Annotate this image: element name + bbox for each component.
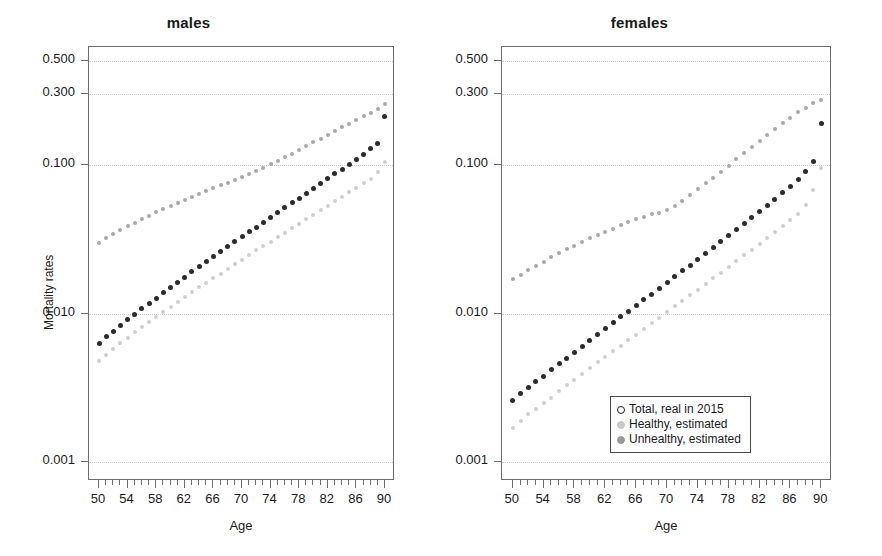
y-gridline — [502, 165, 830, 166]
y-tick — [81, 93, 88, 94]
y-tick-label: 0.001 — [30, 452, 75, 467]
x-tick-label: 62 — [169, 491, 199, 506]
data-point — [549, 367, 554, 372]
y-tick — [494, 93, 501, 94]
legend-item: Healthy, estimated — [617, 417, 741, 432]
data-point — [269, 162, 273, 166]
x-tick-minor — [162, 480, 163, 485]
data-point — [340, 125, 344, 129]
y-tick-label: 0.500 — [443, 51, 488, 66]
x-tick-major — [384, 480, 385, 488]
data-point — [511, 426, 515, 430]
x-tick-minor — [620, 480, 621, 485]
x-tick-minor — [370, 480, 371, 485]
data-point — [703, 251, 708, 256]
data-point — [657, 286, 662, 291]
data-point — [104, 236, 108, 240]
data-point — [340, 167, 345, 172]
data-point — [634, 217, 638, 221]
data-point — [247, 229, 252, 234]
x-tick-minor — [751, 480, 752, 485]
data-point — [742, 151, 746, 155]
data-point — [375, 141, 380, 146]
x-tick-label: 70 — [226, 491, 256, 506]
data-point — [219, 272, 223, 276]
x-tick-minor — [198, 480, 199, 485]
x-tick-minor — [348, 480, 349, 485]
x-tick-minor — [141, 480, 142, 485]
x-tick-minor — [291, 480, 292, 485]
x-tick-label: 66 — [620, 491, 650, 506]
data-point — [118, 323, 123, 328]
data-point — [749, 215, 754, 220]
data-point — [111, 347, 115, 351]
y-tick — [494, 313, 501, 314]
data-point — [518, 391, 523, 396]
data-point — [750, 248, 754, 252]
x-tick-label: 70 — [651, 491, 681, 506]
data-point — [811, 159, 816, 164]
data-point — [796, 177, 801, 182]
x-tick-minor — [177, 480, 178, 485]
y-gridline — [89, 462, 393, 463]
y-tick — [494, 461, 501, 462]
data-point — [369, 177, 373, 181]
data-point — [758, 242, 762, 246]
data-point — [183, 295, 187, 299]
data-point — [680, 199, 684, 203]
x-tick-label: 86 — [774, 491, 804, 506]
data-point — [311, 140, 315, 144]
y-tick — [81, 461, 88, 462]
data-point — [111, 329, 116, 334]
data-point — [572, 350, 577, 355]
data-point — [803, 169, 808, 174]
x-tick-minor — [705, 480, 706, 485]
data-point — [611, 320, 616, 325]
data-point — [354, 186, 358, 190]
x-tick-minor — [119, 480, 120, 485]
data-point — [819, 121, 824, 126]
data-point — [325, 176, 330, 181]
x-tick-minor — [735, 480, 736, 485]
y-tick-label: 0.010 — [443, 304, 488, 319]
x-tick-minor — [581, 480, 582, 485]
x-tick-minor — [377, 480, 378, 485]
x-axis-title-females: Age — [501, 518, 831, 533]
data-point — [354, 157, 359, 162]
data-point — [542, 260, 546, 264]
data-point — [596, 233, 600, 237]
data-point — [611, 349, 615, 353]
y-tick — [81, 60, 88, 61]
data-point — [718, 239, 723, 244]
data-point — [368, 146, 373, 151]
x-tick-label: 54 — [528, 491, 558, 506]
legend-label: Unhealthy, estimated — [629, 432, 741, 447]
data-point — [275, 210, 280, 215]
data-point — [533, 379, 538, 384]
data-point — [711, 176, 715, 180]
x-tick-label: 82 — [312, 491, 342, 506]
data-point — [268, 215, 273, 220]
data-point — [757, 209, 762, 214]
x-tick-label: 78 — [713, 491, 743, 506]
data-point — [376, 107, 380, 111]
data-point — [526, 268, 530, 272]
data-point — [347, 162, 352, 167]
x-tick-minor — [220, 480, 221, 485]
data-point — [276, 235, 280, 239]
data-point — [626, 309, 631, 314]
data-point — [534, 407, 538, 411]
data-point — [626, 338, 630, 342]
data-point — [773, 127, 777, 131]
data-point — [104, 334, 109, 339]
x-tick-minor — [589, 480, 590, 485]
data-point — [542, 401, 546, 405]
data-point — [225, 244, 230, 249]
x-tick-minor — [651, 480, 652, 485]
data-point — [140, 325, 144, 329]
data-point — [510, 398, 515, 403]
data-point — [519, 273, 523, 277]
data-point — [511, 277, 515, 281]
x-tick-minor — [797, 480, 798, 485]
data-point — [297, 148, 301, 152]
